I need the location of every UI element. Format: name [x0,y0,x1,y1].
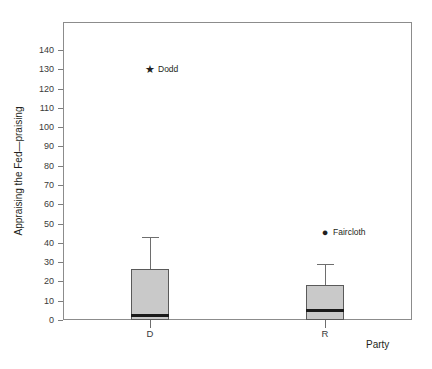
box-d [131,269,169,320]
y-tick-label: 70 [0,181,58,190]
outlier-dodd: ★Dodd [145,64,178,74]
y-tick-label: 50 [0,220,58,229]
y-tick-mark [58,50,63,51]
y-tick-label: 80 [0,162,58,171]
y-tick-mark [58,146,63,147]
whisker-lower-d [150,320,151,328]
y-tick-mark [58,320,63,321]
y-tick-label: 60 [0,200,58,209]
outlier-faircloth: ●Faircloth [320,227,366,237]
y-tick-label: 40 [0,239,58,248]
y-tick-label: 30 [0,258,58,267]
x-tick-label-d: D [130,329,170,339]
y-tick-label: 100 [0,123,58,132]
y-tick-label: 10 [0,297,58,306]
whisker-cap-upper-r [317,264,334,265]
whisker-cap-upper-d [142,237,159,238]
plot-area [63,22,412,320]
y-tick-mark [58,281,63,282]
box-r [306,285,344,320]
star-marker-icon: ★ [145,64,155,74]
y-tick-label: 110 [0,104,58,113]
median-r [306,309,344,312]
circle-marker-icon: ● [320,227,330,237]
y-tick-label: 90 [0,142,58,151]
y-tick-mark [58,301,63,302]
y-tick-label: 130 [0,65,58,74]
y-axis-title: Appraising the Fed—praising [12,22,26,320]
outlier-label-faircloth: Faircloth [333,227,366,237]
y-tick-label: 120 [0,85,58,94]
y-tick-label: 0 [0,316,58,325]
y-tick-mark [58,204,63,205]
y-tick-mark [58,185,63,186]
boxplot-figure: 0102030405060708090100110120130140 DR ★D… [0,0,432,369]
y-tick-label: 140 [0,46,58,55]
outlier-label-dodd: Dodd [158,64,178,74]
y-tick-mark [58,262,63,263]
y-tick-mark [58,108,63,109]
median-d [131,314,169,317]
y-tick-mark [58,243,63,244]
y-tick-mark [58,89,63,90]
y-tick-mark [58,224,63,225]
whisker-upper-d [150,237,151,269]
y-tick-mark [58,166,63,167]
whisker-upper-r [325,264,326,285]
y-tick-mark [58,69,63,70]
x-axis-title: Party [366,339,389,351]
y-tick-label: 20 [0,277,58,286]
x-tick-label-r: R [305,329,345,339]
y-tick-mark [58,127,63,128]
whisker-lower-r [325,320,326,328]
